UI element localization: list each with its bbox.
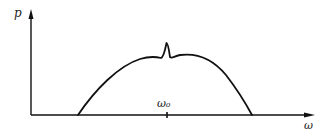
x-axis-arrow-icon xyxy=(304,113,315,118)
spectrum-diagram: p ω ω₀ xyxy=(0,0,334,135)
x-axis-label: ω xyxy=(304,119,313,132)
center-frequency-label: ω₀ xyxy=(157,97,171,110)
x-axis xyxy=(31,113,315,118)
y-axis-arrow-icon xyxy=(29,9,34,19)
y-axis xyxy=(29,9,34,115)
y-axis-label: p xyxy=(14,6,22,20)
